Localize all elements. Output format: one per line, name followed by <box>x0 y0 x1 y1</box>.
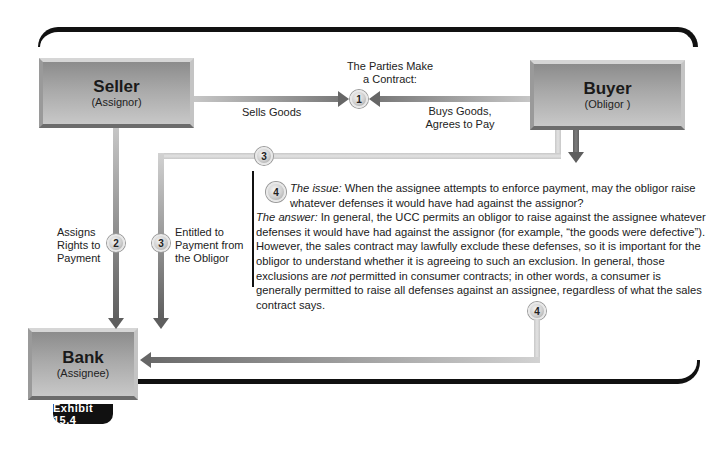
buyer-label-line1: Buys Goods, <box>420 105 500 118</box>
step1-title: The Parties Make a Contract: <box>330 60 450 86</box>
step3-label-line2: Payment from <box>175 239 243 252</box>
buyer-label: Buys Goods, Agrees to Pay <box>420 105 500 131</box>
step2-badge: 2 <box>107 234 125 252</box>
buyer-role: (Obligor ) <box>585 98 631 110</box>
issue-note: The issue: When the assignee attempts to… <box>256 181 706 312</box>
issue-text: When the assignee attempts to enforce pa… <box>290 182 695 209</box>
buyer-to-contract-arrow-icon <box>369 91 380 107</box>
step2-label-line1: Assigns <box>57 226 100 239</box>
seller-box: Seller (Assignor) <box>39 58 194 128</box>
seller-to-bank-line <box>113 128 119 320</box>
answer-paragraph: The answer: In general, the UCC permits … <box>256 210 706 312</box>
sells-goods-label: Sells Goods <box>242 106 301 119</box>
step2-label: Assigns Rights to Payment <box>57 226 100 265</box>
seller-to-bank-arrow-icon <box>108 318 124 329</box>
issue-paragraph: The issue: When the assignee attempts to… <box>256 181 706 210</box>
step2-label-line2: Rights to <box>57 239 100 252</box>
exhibit-label: Exhibit 15.4 <box>53 404 113 424</box>
note-bar <box>252 171 254 287</box>
defense-to-bank-line <box>150 357 540 363</box>
step3-top-badge: 3 <box>255 147 273 165</box>
seller-to-contract-line <box>194 96 339 102</box>
buyer-label-line2: Agrees to Pay <box>420 118 500 131</box>
seller-name: Seller <box>93 78 139 97</box>
buyer-to-issue-arrow-icon <box>568 152 584 163</box>
bank-role: (Assignee) <box>57 367 110 379</box>
payment-to-bank-arrow-icon <box>153 318 169 329</box>
frame-top-border <box>38 27 698 47</box>
buyer-name: Buyer <box>583 80 631 99</box>
step4-bottom-badge: 4 <box>528 302 546 320</box>
answer-emphasis: not <box>331 270 347 282</box>
buyer-box: Buyer (Obligor ) <box>530 60 685 130</box>
bank-name: Bank <box>62 349 104 368</box>
defense-to-bank-arrow-icon <box>140 352 151 368</box>
buyer-to-contract-line <box>380 96 530 102</box>
step3-label-line1: Entitled to <box>175 226 243 239</box>
step3-badge: 3 <box>152 234 170 252</box>
step1-title-line1: The Parties Make <box>330 60 450 73</box>
step2-label-line3: Payment <box>57 252 100 265</box>
step3-label-line3: the Obligor <box>175 252 243 265</box>
issue-label: The issue: <box>290 182 342 194</box>
buyer-payment-line-across <box>158 153 561 159</box>
step1-title-line2: a Contract: <box>330 73 450 86</box>
bank-box: Bank (Assignee) <box>28 328 138 400</box>
step1-badge: 1 <box>350 90 368 108</box>
buyer-to-issue-line <box>573 130 579 154</box>
step3-label: Entitled to Payment from the Obligor <box>175 226 243 265</box>
answer-label: The answer: <box>256 211 318 223</box>
seller-role: (Assignor) <box>91 96 141 108</box>
seller-to-contract-arrow-icon <box>338 91 349 107</box>
